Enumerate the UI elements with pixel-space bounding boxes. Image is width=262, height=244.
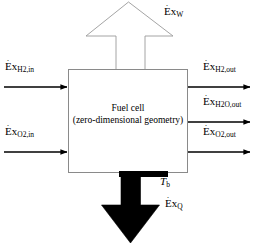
overdot-icon: · xyxy=(7,56,10,65)
subscript-q: Q xyxy=(177,202,182,211)
label-ex-w: ·ExW xyxy=(164,6,183,18)
overdot-icon: · xyxy=(205,91,208,100)
ex-symbol: ·Ex xyxy=(203,96,215,108)
ex-symbol: ·Ex xyxy=(5,126,17,138)
subscript-o2-in: O2,in xyxy=(17,130,34,139)
overdot-icon: · xyxy=(7,121,10,130)
overdot-icon: · xyxy=(167,193,170,202)
label-ex-o2-out: ·ExO2,out xyxy=(203,126,236,138)
control-volume-subtitle: (zero-dimensional geometry) xyxy=(68,115,188,127)
subscript-h2-in: H2,in xyxy=(17,65,34,74)
tb-subscript: b xyxy=(166,180,170,189)
label-boundary-temperature: Tb xyxy=(160,176,170,188)
ex-symbol: ·Ex xyxy=(165,198,177,210)
subscript-h2-out: H2,out xyxy=(215,65,236,74)
work-hollow-arrow xyxy=(86,2,173,70)
label-ex-h2-out: ·ExH2,out xyxy=(203,61,236,73)
overdot-icon: · xyxy=(166,1,169,10)
overdot-icon: · xyxy=(205,56,208,65)
label-ex-q: ·ExQ xyxy=(165,198,183,210)
ex-symbol: ·Ex xyxy=(5,61,17,73)
subscript-h2o-out: H2O,out xyxy=(215,100,241,109)
label-ex-o2-in: ·ExO2,in xyxy=(5,126,34,138)
ex-symbol: ·Ex xyxy=(203,126,215,138)
control-volume-caption: Fuel cell (zero-dimensional geometry) xyxy=(68,103,188,127)
control-volume-title: Fuel cell xyxy=(68,103,188,115)
overdot-icon: · xyxy=(205,121,208,130)
subscript-o2-out: O2,out xyxy=(215,130,236,139)
subscript-w: W xyxy=(176,10,183,19)
ex-symbol: ·Ex xyxy=(203,61,215,73)
ex-symbol: ·Ex xyxy=(164,6,176,18)
fuel-cell-exergy-diagram: Fuel cell (zero-dimensional geometry) ·E… xyxy=(0,0,262,244)
label-ex-h2o-out: ·ExH2O,out xyxy=(203,96,241,108)
heat-solid-arrow xyxy=(102,176,160,243)
label-ex-h2-in: ·ExH2,in xyxy=(5,61,34,73)
